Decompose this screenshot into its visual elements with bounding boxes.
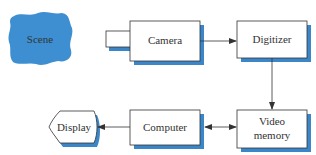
scene-node: Scene <box>9 12 73 65</box>
display-label: Display <box>57 121 92 133</box>
scene-label: Scene <box>27 33 53 45</box>
digitizer-label: Digitizer <box>252 33 291 45</box>
video-memory-node: Video memory <box>237 110 311 152</box>
video-memory-label-line1: Video <box>259 115 286 127</box>
camera-node: Camera <box>106 21 204 65</box>
computer-label: Computer <box>143 121 187 133</box>
diagram-canvas: Scene Camera Digitizer Video memory Comp… <box>0 0 316 155</box>
video-memory-label-line2: memory <box>254 129 291 141</box>
camera-lens <box>106 31 132 47</box>
display-node: Display <box>49 111 100 147</box>
digitizer-node: Digitizer <box>237 21 311 62</box>
camera-label: Camera <box>148 34 182 46</box>
computer-node: Computer <box>130 110 204 149</box>
